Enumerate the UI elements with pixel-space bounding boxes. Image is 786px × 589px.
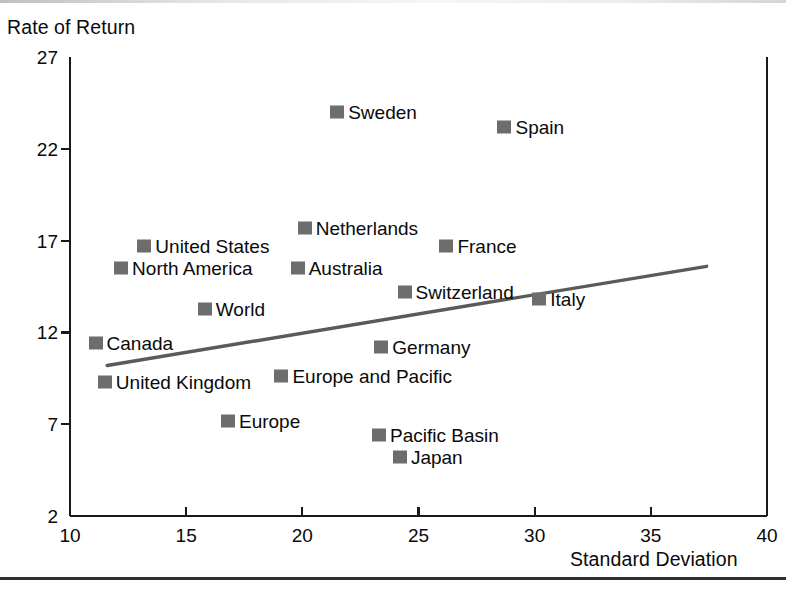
x-tick-label-20: 20 [292, 526, 313, 545]
data-point-marker [398, 286, 412, 299]
x-tick-label-15: 15 [176, 526, 197, 545]
x-tick-label-30: 30 [524, 526, 545, 545]
y-tick-label-12: 12 [14, 323, 58, 342]
data-point-marker [330, 106, 344, 119]
y-tick-label-22: 22 [14, 139, 58, 158]
x-tick-label-10: 10 [59, 526, 80, 545]
data-point-marker [221, 414, 235, 427]
x-tick-label-40: 40 [756, 526, 777, 545]
data-point-label: United Kingdom [116, 372, 251, 391]
x-tick-label-25: 25 [408, 526, 429, 545]
data-point-label: Europe and Pacific [292, 367, 452, 386]
data-point-label: Europe [239, 411, 300, 430]
data-point-label: Sweden [348, 103, 417, 122]
data-point-label: Germany [392, 338, 470, 357]
y-tick-label-7: 7 [14, 415, 58, 434]
footer-rule [0, 577, 786, 580]
data-point-marker [372, 429, 386, 442]
data-point-marker [274, 370, 288, 383]
data-point-label: World [216, 299, 265, 318]
data-point-label: Pacific Basin [390, 426, 499, 445]
data-point-marker [198, 302, 212, 315]
data-point-marker [532, 293, 546, 306]
y-tick-label-27: 27 [14, 48, 58, 67]
data-point-marker [137, 240, 151, 253]
scatter-chart: Rate of Return 271217222710152025303540 … [0, 0, 786, 589]
data-point-label: North America [132, 259, 252, 278]
data-point-label: Spain [515, 117, 564, 136]
y-tick-label-17: 17 [14, 231, 58, 250]
data-point-marker [439, 240, 453, 253]
data-point-marker [393, 451, 407, 464]
data-point-marker [374, 341, 388, 354]
data-point-label: United States [155, 237, 269, 256]
y-tick-label-2: 2 [14, 507, 58, 526]
x-tick-label-35: 35 [640, 526, 661, 545]
data-point-label: France [457, 237, 516, 256]
data-point-label: Canada [107, 334, 174, 353]
data-point-label: Australia [309, 259, 383, 278]
data-point-label: Italy [550, 290, 585, 309]
data-point-marker [89, 337, 103, 350]
data-point-marker [298, 221, 312, 234]
x-axis-title: Standard Deviation [570, 548, 738, 571]
data-point-marker [98, 375, 112, 388]
data-point-label: Switzerland [416, 283, 514, 302]
data-point-label: Japan [411, 448, 463, 467]
data-point-marker [291, 262, 305, 275]
data-point-marker [114, 262, 128, 275]
data-point-label: Netherlands [316, 218, 418, 237]
data-point-marker [497, 120, 511, 133]
plot-area [0, 0, 786, 589]
